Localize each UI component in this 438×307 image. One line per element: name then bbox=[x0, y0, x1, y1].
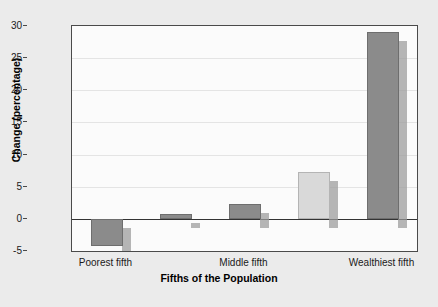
bar-shadow bbox=[329, 181, 338, 228]
plot-area bbox=[71, 25, 418, 252]
bar-shadow bbox=[398, 41, 407, 227]
zero-line bbox=[72, 219, 417, 220]
y-tick-mark bbox=[23, 89, 27, 90]
x-tick-label: Wealthiest fifth bbox=[349, 257, 414, 268]
y-tick-mark bbox=[23, 25, 27, 26]
y-tick-mark bbox=[23, 186, 27, 187]
y-tick-label: -5 bbox=[13, 245, 22, 256]
bar bbox=[298, 172, 330, 219]
y-axis-title: Change (percentage) bbox=[10, 35, 22, 185]
gridline bbox=[72, 58, 417, 59]
x-tick-label: Poorest fifth bbox=[79, 257, 132, 268]
y-tick-mark bbox=[23, 121, 27, 122]
bar-shadow bbox=[122, 228, 131, 252]
y-tick-mark bbox=[23, 57, 27, 58]
gridline bbox=[72, 90, 417, 91]
gridline bbox=[72, 187, 417, 188]
gridline bbox=[72, 122, 417, 123]
bar-shadow bbox=[191, 223, 200, 228]
bar bbox=[229, 204, 261, 219]
bar-shadow bbox=[260, 213, 269, 228]
bar bbox=[91, 219, 123, 246]
y-tick-mark bbox=[23, 218, 27, 219]
y-tick-label: 30 bbox=[11, 20, 22, 31]
bar-chart: -5051015202530 Change (percentage) Poore… bbox=[0, 0, 438, 307]
y-tick-label: 0 bbox=[16, 212, 22, 223]
y-tick-mark bbox=[23, 250, 27, 251]
gridline bbox=[72, 155, 417, 156]
bar bbox=[160, 214, 192, 219]
x-axis-title: Fifths of the Population bbox=[0, 272, 438, 284]
bar bbox=[367, 32, 399, 218]
y-tick-mark bbox=[23, 154, 27, 155]
x-tick-label: Middle fifth bbox=[219, 257, 267, 268]
